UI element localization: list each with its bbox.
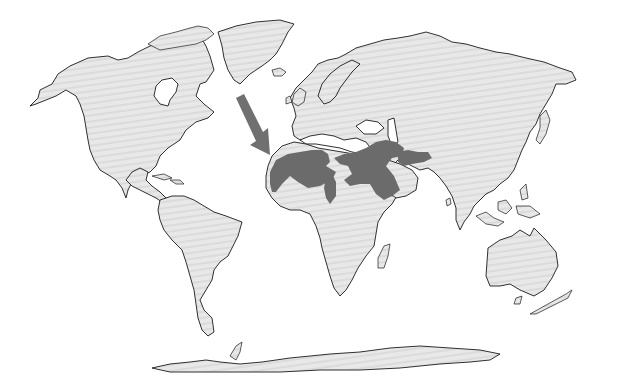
arrow-down-right-icon (236, 94, 270, 155)
continent-north-america (30, 33, 214, 198)
continent-south-america (158, 196, 242, 336)
central-america (126, 168, 166, 202)
tasmania (514, 296, 522, 304)
continent-antarctica (152, 346, 500, 372)
continent-australia (486, 228, 558, 296)
iceland (272, 68, 286, 76)
world-map (0, 0, 630, 381)
madagascar (378, 244, 390, 268)
sri-lanka (446, 198, 451, 206)
caribbean-islands (152, 174, 184, 184)
antarctic-peninsula (230, 342, 242, 360)
